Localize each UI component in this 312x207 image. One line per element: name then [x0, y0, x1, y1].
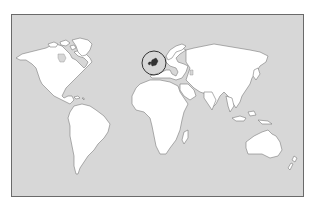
hudson-bay	[58, 54, 66, 62]
world-map	[0, 0, 312, 207]
south-america	[68, 104, 110, 174]
new-zealand	[288, 156, 297, 170]
australia	[246, 130, 282, 158]
caspian-sea	[190, 70, 193, 75]
british-isles-highlight	[148, 58, 158, 66]
caribbean-islands	[74, 96, 84, 100]
indonesia	[232, 111, 272, 124]
africa	[132, 80, 188, 154]
madagascar	[182, 130, 188, 144]
japan	[253, 68, 260, 80]
